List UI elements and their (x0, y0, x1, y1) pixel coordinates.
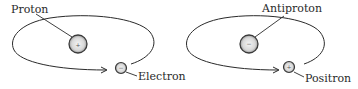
antiproton-label: Antiproton (261, 2, 322, 15)
hydrogen-panel: + Proton − Electron (11, 3, 186, 83)
antiproton-charge-sign: − (246, 40, 251, 47)
proton-charge-sign: + (75, 41, 80, 48)
proton-label: Proton (11, 3, 48, 16)
positron-charge-sign: + (286, 63, 291, 70)
positron-leader-line (294, 72, 304, 77)
electron-charge-sign: − (118, 64, 123, 71)
electron-label: Electron (138, 70, 186, 83)
atom-diagram: + Proton − Electron − Antiproton + Posit… (0, 0, 358, 89)
positron-label: Positron (305, 72, 351, 85)
antiproton-leader-line (255, 16, 284, 37)
electron-leader-line (126, 72, 137, 76)
antihydrogen-panel: − Antiproton + Positron (187, 2, 352, 85)
